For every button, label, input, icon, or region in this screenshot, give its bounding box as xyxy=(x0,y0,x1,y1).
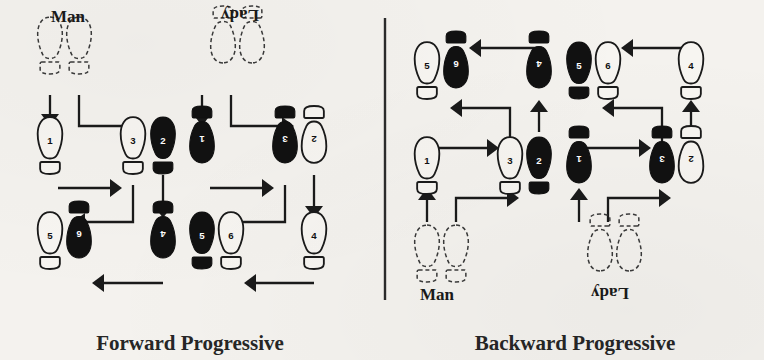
footprint-step-number: 2 xyxy=(311,134,316,145)
footprint-step-3-forward-progressive-lady: 3 xyxy=(273,106,298,163)
footprint-heel xyxy=(681,87,701,99)
footprint-heel xyxy=(221,257,241,269)
footprint-step-5-forward-progressive-lady: 5 xyxy=(190,212,215,269)
footprint-step-number: 3 xyxy=(130,135,136,146)
role-label-forward-progressive-man: Man xyxy=(51,7,86,26)
footprint-step-1-forward-progressive-man: 1 xyxy=(38,117,63,174)
footprint-step-6-backward-progressive-man: 6 xyxy=(444,31,469,88)
footprint-step-5-forward-progressive-man: 5 xyxy=(38,212,63,269)
footprint-heel xyxy=(304,106,324,118)
footprint-step-number: 2 xyxy=(160,135,165,146)
footprint-step-3-backward-progressive-man: 3 xyxy=(498,137,523,194)
footprint-step-number: 3 xyxy=(282,134,288,145)
footprint-step-number: 5 xyxy=(576,60,582,71)
paper-background xyxy=(0,0,764,360)
footprint-step-number: 1 xyxy=(199,134,205,145)
footprint-heel xyxy=(569,126,589,138)
footprint-step-4-forward-progressive-lady: 4 xyxy=(302,212,327,269)
footprint-step-number: 2 xyxy=(688,154,693,165)
footprint-step-2-backward-progressive-lady: 2 xyxy=(679,126,704,183)
footprint-heel xyxy=(681,126,701,138)
footprint-heel xyxy=(529,31,549,43)
footprint-step-number: 5 xyxy=(424,60,430,71)
footprint-heel xyxy=(275,106,295,118)
footprint-heel xyxy=(446,31,466,43)
footprint-step-number: 5 xyxy=(199,230,205,241)
role-label-forward-progressive-lady: Lady xyxy=(221,6,259,25)
footprint-step-5-backward-progressive-lady: 5 xyxy=(567,42,592,99)
footprint-step-2-forward-progressive-lady: 2 xyxy=(302,106,327,163)
footprint-step-2-forward-progressive-man: 2 xyxy=(151,117,176,174)
footprint-step-number: 1 xyxy=(47,135,53,146)
footprint-heel xyxy=(123,162,143,174)
footprint-heel xyxy=(417,182,437,194)
footprint-step-1-forward-progressive-lady: 1 xyxy=(190,106,215,163)
footprint-step-4-forward-progressive-man: 4 xyxy=(151,201,176,258)
footprint-step-4-backward-progressive-man: 4 xyxy=(527,31,552,88)
footprint-heel xyxy=(40,257,60,269)
footprint-heel xyxy=(417,87,437,99)
footprint-heel xyxy=(500,182,520,194)
footprint-heel xyxy=(192,257,212,269)
footprint-step-number: 6 xyxy=(76,229,82,240)
footprint-heel xyxy=(304,257,324,269)
footprint-heel xyxy=(40,162,60,174)
footprint-step-4-backward-progressive-lady: 4 xyxy=(679,42,704,99)
footprint-step-number: 6 xyxy=(453,59,459,70)
footprint-step-3-forward-progressive-man: 3 xyxy=(121,117,146,174)
role-label-backward-progressive-lady: Lady xyxy=(591,284,629,303)
footprint-step-6-forward-progressive-man: 6 xyxy=(67,201,92,258)
footprint-step-6-forward-progressive-lady: 6 xyxy=(219,212,244,269)
footprint-step-number: 4 xyxy=(536,59,542,70)
footprint-step-number: 3 xyxy=(507,155,513,166)
footprint-heel xyxy=(652,126,672,138)
footprint-step-1-backward-progressive-man: 1 xyxy=(415,137,440,194)
footprint-heel xyxy=(69,201,89,213)
footprint-step-number: 1 xyxy=(424,155,430,166)
footprint-heel xyxy=(153,162,173,174)
footprint-step-number: 6 xyxy=(605,60,611,71)
footprint-step-5-backward-progressive-man: 5 xyxy=(415,42,440,99)
footprint-heel xyxy=(192,106,212,118)
footprint-step-2-backward-progressive-man: 2 xyxy=(527,137,552,194)
footprint-step-number: 4 xyxy=(311,230,317,241)
footprint-step-number: 4 xyxy=(688,60,694,71)
footprint-step-number: 2 xyxy=(536,155,541,166)
role-label-backward-progressive-man: Man xyxy=(420,285,455,304)
footprint-step-number: 1 xyxy=(576,154,582,165)
footprint-step-1-backward-progressive-lady: 1 xyxy=(567,126,592,183)
footprint-step-number: 6 xyxy=(228,230,234,241)
panel-caption-backward-progressive: Backward Progressive xyxy=(475,331,675,355)
footprint-step-3-backward-progressive-lady: 3 xyxy=(650,126,675,183)
footprint-heel xyxy=(598,87,618,99)
dance-step-diagram: 132564Man132564Lady132564Man132564Lady F… xyxy=(0,0,764,360)
panel-caption-forward-progressive: Forward Progressive xyxy=(96,331,284,355)
footprint-step-number: 3 xyxy=(659,154,665,165)
footprint-step-number: 4 xyxy=(160,229,166,240)
footprint-heel xyxy=(153,201,173,213)
dance-diagram-stage: 132564Man132564Lady132564Man132564Lady F… xyxy=(0,0,764,360)
footprint-step-number: 5 xyxy=(47,230,53,241)
footprint-heel xyxy=(569,87,589,99)
footprint-step-6-backward-progressive-lady: 6 xyxy=(596,42,621,99)
footprint-heel xyxy=(529,182,549,194)
